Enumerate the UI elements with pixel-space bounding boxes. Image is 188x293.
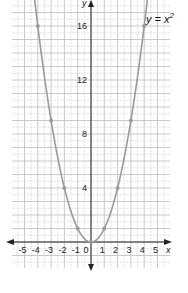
y-tick-label: 12 (77, 75, 87, 85)
x-tick-label: -4 (32, 245, 40, 255)
data-point (129, 119, 133, 123)
data-point (89, 240, 93, 244)
equation-label: y = x2 (145, 11, 175, 25)
data-point (49, 119, 53, 123)
data-point (76, 227, 80, 231)
x-tick-label: 5 (153, 245, 158, 255)
x-axis-label: x (165, 245, 171, 255)
x-tick-label: -1 (72, 245, 80, 255)
x-tick-label: 1 (100, 245, 105, 255)
y-axis-arrow-down-icon (88, 264, 94, 271)
x-tick-label: -2 (58, 245, 66, 255)
y-tick-label: 4 (82, 183, 87, 193)
x-tick-label: 0 (83, 245, 88, 255)
y-tick-label: 8 (82, 129, 87, 139)
equation-exponent: 2 (169, 11, 175, 20)
y-axis-label: y (81, 0, 87, 8)
x-tick-label: 4 (140, 245, 145, 255)
data-point (62, 186, 66, 190)
x-axis-arrow-left-icon (6, 239, 14, 245)
x-tick-label: 2 (113, 245, 118, 255)
x-tick-label: -5 (18, 245, 26, 255)
data-point (116, 186, 120, 190)
equation-base: y = x (145, 13, 170, 25)
y-axis-arrow-up-icon (88, 0, 94, 7)
parabola-chart: -5-4-3-2-1012345 481216 x y y = x2 (0, 0, 188, 293)
y-tick-label: 16 (77, 21, 87, 31)
x-tick-label: -3 (45, 245, 53, 255)
x-tick-labels: -5-4-3-2-1012345 (18, 245, 158, 255)
x-tick-label: 3 (126, 245, 131, 255)
data-point (36, 24, 40, 28)
data-point (102, 227, 106, 231)
